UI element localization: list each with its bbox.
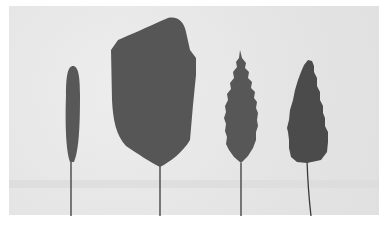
stem-4: [307, 160, 311, 216]
leaf-broad: [111, 18, 196, 167]
specimens-illustration: [0, 0, 388, 229]
leaf-narrow: [66, 66, 80, 162]
leaf-dark-toothed: [287, 60, 328, 163]
leaf-serrate: [224, 50, 258, 163]
